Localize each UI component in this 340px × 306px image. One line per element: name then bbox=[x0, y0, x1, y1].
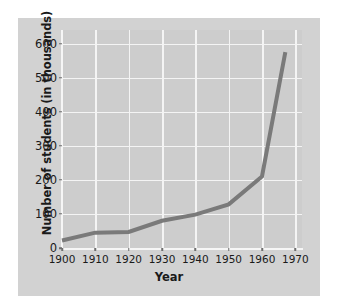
line-series-svg bbox=[62, 30, 302, 248]
x-axis-tick-label: 1930 bbox=[149, 253, 176, 265]
x-axis-title: Year bbox=[18, 270, 320, 284]
line-series-path bbox=[62, 52, 285, 240]
y-axis-tick-label: 300 bbox=[35, 139, 57, 153]
y-axis-tick-label: 100 bbox=[35, 207, 57, 221]
x-axis-tick-mark bbox=[95, 248, 97, 251]
x-axis-tick-mark bbox=[295, 248, 297, 251]
y-axis-tick-label: 400 bbox=[35, 105, 57, 119]
y-axis-tick-label: 600 bbox=[35, 37, 57, 51]
x-axis-tick-mark bbox=[161, 248, 163, 251]
x-axis-tick-label: 1910 bbox=[82, 253, 109, 265]
x-axis-line bbox=[61, 248, 303, 250]
x-axis-tick-label: 1940 bbox=[182, 253, 209, 265]
y-axis-tick-label: 200 bbox=[35, 173, 57, 187]
plot-area: 0100200300400500600190019101920193019401… bbox=[62, 30, 302, 248]
y-axis-tick-label: 500 bbox=[35, 71, 57, 85]
chart-figure: Number of students (in thousands) Year 0… bbox=[18, 18, 320, 296]
x-axis-tick-label: 1900 bbox=[49, 253, 76, 265]
x-axis-tick-mark bbox=[195, 248, 197, 251]
x-axis-tick-label: 1950 bbox=[215, 253, 242, 265]
x-axis-tick-label: 1970 bbox=[282, 253, 309, 265]
x-axis-tick-mark bbox=[261, 248, 263, 251]
x-axis-tick-label: 1960 bbox=[249, 253, 276, 265]
x-axis-tick-mark bbox=[128, 248, 130, 251]
x-axis-tick-label: 1920 bbox=[115, 253, 142, 265]
x-axis-tick-mark bbox=[61, 248, 63, 251]
x-axis-tick-mark bbox=[228, 248, 230, 251]
